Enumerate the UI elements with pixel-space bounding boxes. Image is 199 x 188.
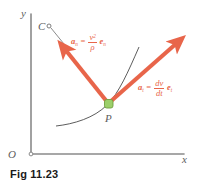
tangential-unit-vector-subscript: t	[171, 87, 172, 93]
tangential-fraction: dv dt	[154, 79, 164, 98]
particle-marker	[105, 100, 114, 109]
figure-caption: Fig 11.23	[10, 168, 58, 180]
origin-label: O	[8, 149, 16, 160]
normal-numerator-exponent: 2	[93, 33, 96, 39]
center-of-curvature-label: C	[38, 21, 45, 32]
x-axis-label: x	[182, 154, 187, 165]
normal-symbol-subscript: n	[75, 41, 78, 47]
radius-of-curvature-line	[51, 28, 64, 44]
normal-denominator: ρ	[88, 43, 96, 52]
tangential-acceleration-label: at = dv dt et	[138, 79, 172, 98]
center-of-curvature-marker	[47, 24, 51, 28]
tangential-denominator: dt	[154, 89, 164, 98]
normal-acceleration-arrow	[64, 48, 108, 103]
normal-fraction: v2 ρ	[88, 33, 96, 52]
tangential-equals: =	[146, 82, 152, 92]
normal-equals: =	[80, 36, 86, 46]
origin-marker	[29, 152, 33, 156]
particle-label: P	[105, 113, 112, 124]
y-axis-label: y	[21, 8, 26, 19]
normal-acceleration-label: an = v2 ρ en	[71, 33, 106, 52]
normal-unit-vector-subscript: n	[103, 41, 106, 47]
tangential-symbol-subscript: t	[142, 87, 143, 93]
figure-container: an = v2 ρ en at = dv dt et y x O C P Fig…	[0, 0, 199, 188]
